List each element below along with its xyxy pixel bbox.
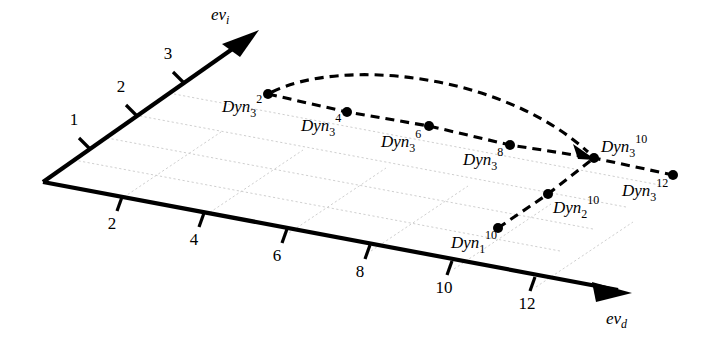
- point-label-dyn-3-6: Dyn36: [380, 127, 421, 155]
- grid-line-depth-2: [107, 138, 593, 229]
- axis-ev-d-arrowhead: [592, 282, 632, 302]
- grid-line-across-6: [289, 168, 386, 233]
- tick-ev-d-10: [447, 261, 452, 275]
- tick-label-ev-d-10: 10: [436, 278, 453, 297]
- axis-label-ev-d-base: ev: [606, 309, 622, 328]
- tick-label-group: 2 4 6 8 10 12 1 2 3: [70, 44, 536, 313]
- point-label-sup: 4: [335, 111, 341, 125]
- grid-line-across-2: [124, 132, 221, 197]
- diagram-canvas: 2 4 6 8 10 12 1 2 3 evi evd Dyn32: [0, 0, 708, 345]
- marker-dyn-3-8[interactable]: [505, 140, 515, 150]
- grid-line-depth-3: [140, 116, 626, 207]
- point-label-base: Dyn: [300, 116, 329, 135]
- point-label-dyn-1-10: Dyn110: [450, 228, 497, 256]
- point-label-sup: 12: [656, 176, 668, 190]
- axis-label-ev-d: evd: [606, 309, 628, 331]
- point-label-sup: 2: [256, 92, 262, 106]
- axis-ev-d-group: [43, 182, 632, 302]
- point-label-sup: 10: [635, 132, 647, 146]
- point-label-sub: 3: [409, 141, 415, 155]
- axis-label-ev-i-sub: i: [226, 13, 229, 27]
- tick-label-ev-i-1: 1: [70, 110, 79, 129]
- axis-label-ev-d-sub: d: [621, 317, 628, 331]
- tick-label-ev-d-6: 6: [273, 246, 282, 265]
- tick-ev-d-4: [199, 213, 204, 227]
- point-label-sub: 2: [581, 207, 587, 221]
- marker-dyn-2-10[interactable]: [543, 189, 553, 199]
- tick-ev-i-1: [79, 138, 90, 149]
- point-label-sub: 3: [629, 146, 635, 160]
- series-arc-convergence: [272, 75, 588, 152]
- point-label-sub: 3: [491, 159, 497, 173]
- point-label-base: Dyn: [600, 137, 629, 156]
- point-label-dyn-3-2: Dyn32: [221, 92, 262, 120]
- tick-ev-d-8: [365, 245, 370, 259]
- marker-dyn-3-4[interactable]: [342, 107, 352, 117]
- tick-ev-i-3: [173, 72, 184, 83]
- point-label-base: Dyn: [450, 233, 479, 252]
- marker-dyn-3-2[interactable]: [263, 89, 273, 99]
- tick-label-ev-d-4: 4: [190, 230, 199, 249]
- point-label-dyn-3-4: Dyn34: [300, 111, 341, 139]
- point-label-base: Dyn: [462, 150, 491, 169]
- point-label-dyn-3-10: Dyn310: [600, 132, 647, 160]
- point-label-dyn-3-12: Dyn312: [621, 176, 668, 204]
- tick-ev-d-2: [117, 197, 122, 211]
- point-label-dyn-3-8: Dyn38: [462, 145, 503, 173]
- point-label-base: Dyn: [621, 181, 650, 200]
- tick-label-ev-d-2: 2: [108, 214, 117, 233]
- point-label-dyn-2-10: Dyn210: [552, 193, 599, 221]
- point-label-base: Dyn: [380, 132, 409, 151]
- tick-label-ev-d-8: 8: [356, 262, 365, 281]
- point-label-sub: 1: [479, 242, 485, 256]
- point-label-sub: 3: [250, 106, 256, 120]
- marker-dyn-3-12[interactable]: [668, 170, 678, 180]
- axis-ev-d-line: [43, 182, 618, 290]
- point-label-sup: 10: [587, 193, 599, 207]
- axis-label-ev-i-base: ev: [211, 5, 227, 24]
- point-label-sub: 3: [329, 125, 335, 139]
- tick-label-ev-d-12: 12: [519, 294, 536, 313]
- tick-ev-i-2: [126, 105, 137, 116]
- tick-ev-d-6: [282, 229, 287, 243]
- marker-dyn-3-10[interactable]: [589, 153, 599, 163]
- point-label-group: Dyn32 Dyn34 Dyn36 Dyn38 Dyn310 Dyn312 Dy…: [221, 92, 668, 256]
- tick-label-ev-i-2: 2: [117, 77, 126, 96]
- point-label-base: Dyn: [552, 198, 581, 217]
- axis-label-ev-i: evi: [211, 5, 229, 27]
- point-label-sup: 8: [497, 145, 503, 159]
- point-label-sup: 6: [415, 127, 421, 141]
- plot-svg: 2 4 6 8 10 12 1 2 3 evi evd Dyn32: [0, 0, 708, 345]
- point-label-sub: 3: [650, 190, 656, 204]
- grid-line-across-4: [206, 150, 303, 215]
- tick-label-ev-i-3: 3: [164, 44, 173, 63]
- point-label-sup: 10: [485, 228, 497, 242]
- tick-ev-d-12: [530, 277, 535, 291]
- point-label-base: Dyn: [221, 97, 250, 116]
- marker-dyn-3-6[interactable]: [424, 121, 434, 131]
